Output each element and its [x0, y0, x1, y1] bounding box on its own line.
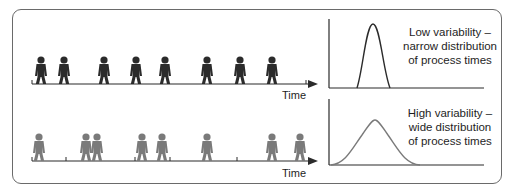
timeline-low — [32, 56, 318, 88]
person-icon — [201, 133, 213, 161]
person-icon — [98, 56, 110, 84]
low-variability-label: Low variability – narrow distribution of… — [395, 25, 505, 67]
people-low — [35, 56, 278, 84]
person-icon — [294, 133, 306, 161]
label-line: of process times — [395, 134, 505, 148]
label-line: wide distribution — [395, 120, 505, 134]
person-icon — [33, 133, 45, 161]
label-line: High variability – — [395, 106, 505, 120]
person-icon — [234, 56, 246, 84]
label-line: narrow distribution — [395, 39, 505, 53]
people-high — [33, 133, 306, 161]
label-line: of process times — [395, 53, 505, 67]
person-icon — [130, 56, 142, 84]
timeline-high — [32, 133, 318, 165]
person-icon — [156, 133, 168, 161]
person-icon — [80, 133, 92, 161]
person-icon — [35, 56, 47, 84]
time-axis-label-low: Time — [282, 89, 306, 101]
narrow-curve — [357, 24, 390, 88]
arrow-icon — [308, 80, 318, 88]
person-icon — [136, 133, 148, 161]
person-icon — [201, 56, 213, 84]
arrow-icon — [308, 157, 318, 165]
label-line: Low variability – — [395, 25, 505, 39]
time-axis-label-high: Time — [282, 167, 306, 179]
person-icon — [266, 133, 278, 161]
person-icon — [58, 56, 70, 84]
person-icon — [91, 133, 103, 161]
high-variability-label: High variability – wide distribution of … — [395, 106, 505, 148]
person-icon — [266, 56, 278, 84]
person-icon — [159, 56, 171, 84]
